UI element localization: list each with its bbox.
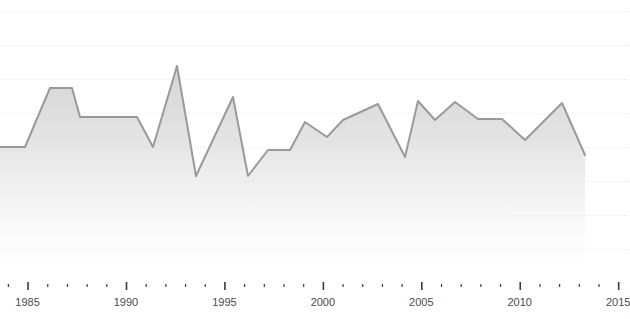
x-axis-tick-label: 1995: [212, 296, 236, 308]
x-axis-tick-label: 2010: [508, 296, 532, 308]
x-axis-tick-label: 1985: [15, 296, 39, 308]
x-axis-minor-ticks: [8, 284, 599, 287]
x-axis-tick-label: 1990: [114, 296, 138, 308]
x-axis-major-ticks: [28, 282, 619, 290]
area-fill-path: [0, 66, 585, 280]
x-axis-tick-label: 2005: [409, 296, 433, 308]
area-chart-svg: [0, 0, 630, 280]
x-axis-tick-label: 2000: [311, 296, 335, 308]
x-axis-tick-labels: 1985199019952000200520102015: [15, 296, 630, 308]
plot-area: [0, 0, 630, 280]
chart-container: 1985199019952000200520102015: [0, 0, 630, 319]
x-axis-tick-label: 2015: [606, 296, 630, 308]
x-axis: 1985199019952000200520102015: [0, 280, 630, 319]
x-axis-svg: 1985199019952000200520102015: [0, 280, 630, 319]
